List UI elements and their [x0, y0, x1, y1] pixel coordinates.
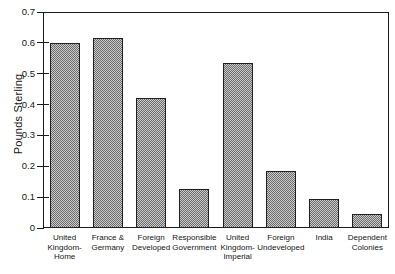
y-tick-mark [37, 42, 44, 43]
y-tick-mark-inner [44, 166, 49, 167]
bar [309, 199, 339, 228]
y-tick-mark-inner [44, 135, 49, 136]
bar [93, 38, 123, 228]
x-axis-label-line: Colonies [340, 243, 395, 253]
y-tick-mark [37, 166, 44, 167]
x-axis-label-line: Dependent [340, 233, 395, 243]
bar [223, 63, 253, 228]
bar [50, 43, 80, 228]
x-axis-label-line: Imperial [210, 252, 265, 262]
y-tick-mark-inner [44, 42, 49, 43]
y-tick-mark [37, 228, 44, 229]
y-tick-mark-inner [44, 73, 49, 74]
x-axis-label-line: Undeveloped [253, 243, 308, 253]
y-tick-label: 0.1 [5, 191, 35, 202]
x-axis-label: DependentColonies [340, 233, 395, 252]
bar [352, 214, 382, 228]
bar [136, 98, 166, 228]
y-tick-mark [37, 104, 44, 105]
y-tick-mark [37, 73, 44, 74]
y-tick-mark [37, 197, 44, 198]
y-tick-label: 0.4 [5, 99, 35, 110]
bar [179, 189, 209, 228]
y-tick-label: 0.5 [5, 68, 35, 79]
y-tick-label: 0.6 [5, 37, 35, 48]
y-tick-mark [37, 12, 44, 13]
y-tick-mark [37, 135, 44, 136]
y-tick-label: 0 [5, 222, 35, 233]
y-tick-label: 0.2 [5, 160, 35, 171]
y-tick-mark-inner [44, 104, 49, 105]
bar-chart: Pounds Sterling 00.10.20.30.40.50.60.7 U… [0, 0, 395, 274]
y-tick-label: 0.7 [5, 6, 35, 17]
bar [266, 171, 296, 228]
y-tick-mark-inner [44, 197, 49, 198]
y-tick-label: 0.3 [5, 129, 35, 140]
x-axis-label-line: Home [37, 252, 92, 262]
